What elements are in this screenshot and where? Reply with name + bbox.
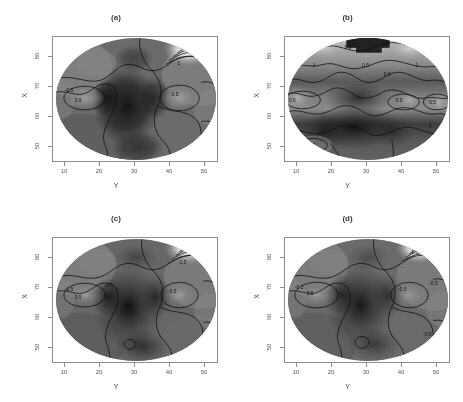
panel-b-xtick-10: 10 <box>293 168 300 174</box>
panel-d-ytick-60: 60 <box>266 314 272 321</box>
svg-text:0.5: 0.5 <box>75 98 82 103</box>
panel-b-xtick-20: 20 <box>328 168 335 174</box>
svg-text:-0.5: -0.5 <box>307 143 316 148</box>
panel-a-title: (a) <box>0 13 232 22</box>
panel-d-xtick-30: 30 <box>363 369 370 375</box>
panel-a-surface: 2 0.5 0.5 -0.5 -0.5 -0.5 1 <box>53 37 217 161</box>
panel-b-xtick-40: 40 <box>398 168 405 174</box>
panel-c-xtick-40: 40 <box>166 369 173 375</box>
panel-d-xtick-40: 40 <box>398 369 405 375</box>
svg-text:2: 2 <box>185 47 188 52</box>
svg-text:0.5: 0.5 <box>75 295 82 300</box>
svg-text:-0.5: -0.5 <box>65 88 74 93</box>
svg-text:1: 1 <box>313 63 316 68</box>
panel-d-title: (d) <box>232 214 463 223</box>
panel-a-xtick-40: 40 <box>166 168 173 174</box>
panel-b-ytick-80: 80 <box>266 53 272 60</box>
figure-panel-grid: (a) X Y 50 60 70 80 10 20 30 40 50 <box>0 0 463 402</box>
svg-text:-0.5: -0.5 <box>429 281 438 286</box>
svg-text:0.5: 0.5 <box>307 291 314 296</box>
svg-text:-0.5: -0.5 <box>423 332 432 337</box>
panel-c: (c) X Y 50 60 70 80 10 20 30 40 50 <box>0 201 232 402</box>
panel-b-xtick-50: 50 <box>433 168 440 174</box>
panel-c-x-axis-label: Y <box>0 383 232 390</box>
panel-c-ytick-80: 80 <box>34 254 40 261</box>
svg-text:-0.5: -0.5 <box>199 137 208 142</box>
svg-text:0.5: 0.5 <box>289 98 296 103</box>
svg-text:0.5: 0.5 <box>384 72 391 77</box>
svg-text:0.5: 0.5 <box>429 100 436 105</box>
svg-text:-0.5: -0.5 <box>65 287 74 292</box>
panel-b-ytick-60: 60 <box>266 113 272 120</box>
panel-b-ytick-70: 70 <box>266 83 272 90</box>
svg-text:0.5: 0.5 <box>396 98 403 103</box>
svg-text:0.5: 0.5 <box>362 63 369 68</box>
panel-b-ytick-50: 50 <box>266 143 272 150</box>
svg-text:1: 1 <box>177 61 180 66</box>
svg-text:1.5: 1.5 <box>179 260 186 265</box>
panel-c-xtick-20: 20 <box>96 369 103 375</box>
panel-a-ytick-80: 80 <box>34 53 40 60</box>
panel-a-xtick-50: 50 <box>201 168 208 174</box>
panel-d: (d) X Y 50 60 70 80 10 20 30 40 50 <box>232 201 463 402</box>
panel-d-surface: 1.5 0.5 0.5 -0.5 -0.5 -0.5 <box>285 238 449 362</box>
panel-c-ytick-70: 70 <box>34 284 40 291</box>
svg-text:-0.5: -0.5 <box>104 283 113 288</box>
panel-c-ytick-60: 60 <box>34 314 40 321</box>
svg-text:1: 1 <box>429 124 432 129</box>
panel-d-ytick-70: 70 <box>266 284 272 291</box>
panel-a-ytick-60: 60 <box>34 113 40 120</box>
svg-text:1.5: 1.5 <box>344 45 351 50</box>
panel-b-x-axis-label: Y <box>232 182 463 189</box>
panel-b-y-axis-label: X <box>253 93 260 98</box>
panel-b-surface: 1.5 1 1 0.5 0.5 0.5 0.5 0.5 -0.5 1 <box>285 37 449 161</box>
svg-text:2: 2 <box>185 246 188 251</box>
panel-a: (a) X Y 50 60 70 80 10 20 30 40 50 <box>0 0 232 201</box>
svg-text:0.5: 0.5 <box>170 289 177 294</box>
panel-c-y-axis-label: X <box>21 294 28 299</box>
panel-a-x-axis-label: Y <box>0 182 232 189</box>
panel-d-y-axis-label: X <box>253 294 260 299</box>
svg-text:0.5: 0.5 <box>400 287 407 292</box>
panel-a-xtick-20: 20 <box>96 168 103 174</box>
panel-c-xtick-10: 10 <box>61 369 68 375</box>
panel-a-plot-area: 2 0.5 0.5 -0.5 -0.5 -0.5 1 <box>52 36 218 162</box>
panel-d-x-axis-label: Y <box>232 383 463 390</box>
panel-c-surface: 2 1.5 0.5 0.5 -0.5 -0.5 -0.5 -0.5 <box>53 238 217 362</box>
panel-c-xtick-30: 30 <box>131 369 138 375</box>
svg-text:0.5: 0.5 <box>172 92 179 97</box>
svg-text:-0.5: -0.5 <box>295 285 304 290</box>
panel-d-xtick-10: 10 <box>293 369 300 375</box>
svg-text:1.5: 1.5 <box>411 250 418 255</box>
panel-d-ytick-50: 50 <box>266 344 272 351</box>
svg-text:1: 1 <box>415 63 418 68</box>
svg-text:-0.5: -0.5 <box>63 151 72 156</box>
panel-b-xtick-30: 30 <box>363 168 370 174</box>
panel-c-ytick-50: 50 <box>34 344 40 351</box>
panel-d-plot-area: 1.5 0.5 0.5 -0.5 -0.5 -0.5 <box>284 237 450 363</box>
panel-a-xtick-10: 10 <box>61 168 68 174</box>
panel-c-plot-area: 2 1.5 0.5 0.5 -0.5 -0.5 -0.5 -0.5 <box>52 237 218 363</box>
panel-b-plot-area: 1.5 1 1 0.5 0.5 0.5 0.5 0.5 -0.5 1 <box>284 36 450 162</box>
panel-d-ytick-80: 80 <box>266 254 272 261</box>
panel-b: (b) X Y 50 60 70 80 10 20 30 40 50 <box>232 0 463 201</box>
panel-a-ytick-50: 50 <box>34 143 40 150</box>
panel-a-xtick-30: 30 <box>131 168 138 174</box>
panel-b-title: (b) <box>232 13 463 22</box>
panel-d-xtick-20: 20 <box>328 369 335 375</box>
panel-d-xtick-50: 50 <box>433 369 440 375</box>
panel-a-y-axis-label: X <box>21 93 28 98</box>
panel-a-ytick-70: 70 <box>34 83 40 90</box>
panel-c-xtick-50: 50 <box>201 369 208 375</box>
svg-text:-0.5: -0.5 <box>197 340 206 345</box>
panel-c-title: (c) <box>0 214 232 223</box>
svg-text:-0.5: -0.5 <box>65 352 74 357</box>
